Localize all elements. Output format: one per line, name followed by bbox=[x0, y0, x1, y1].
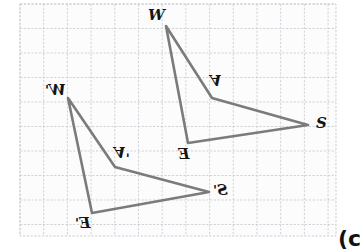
label-A-prime-prime-mark: ' bbox=[126, 144, 130, 159]
label-A: A bbox=[210, 72, 222, 87]
label-A-prime-letter: A bbox=[114, 143, 126, 161]
label-E-prime: E' bbox=[75, 216, 90, 231]
label-W-letter: W bbox=[148, 6, 165, 24]
label-W-prime-letter: W bbox=[49, 81, 66, 99]
label-E: E bbox=[178, 147, 189, 162]
label-W: W bbox=[148, 8, 165, 23]
label-S: S bbox=[316, 116, 327, 131]
label-E-prime-letter: E bbox=[79, 214, 90, 232]
label-S-prime-letter: S bbox=[217, 181, 228, 199]
label-W-prime: W' bbox=[45, 83, 66, 98]
label-A-prime: A' bbox=[114, 144, 130, 159]
label-A-letter: A bbox=[210, 71, 222, 89]
figure-canvas bbox=[0, 0, 363, 250]
geometry-figure: WASEW'A'S'E' (c bbox=[0, 0, 363, 250]
label-S-prime-prime-mark: ' bbox=[213, 183, 217, 198]
label-S-prime: S' bbox=[213, 183, 228, 198]
label-S-letter: S bbox=[316, 114, 327, 132]
label-E-letter: E bbox=[178, 145, 189, 163]
label-E-prime-prime-mark: ' bbox=[75, 216, 79, 231]
figure-caption: (c bbox=[338, 228, 361, 250]
label-W-prime-prime-mark: ' bbox=[45, 83, 49, 98]
